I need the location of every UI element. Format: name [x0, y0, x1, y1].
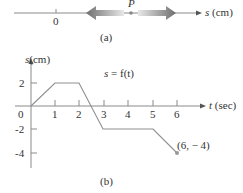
- x-tick-label-4: 4: [125, 108, 131, 120]
- caption-b: (b): [100, 175, 113, 188]
- origin-label-b: 0: [18, 108, 24, 120]
- left-arrow-icon: [86, 6, 124, 20]
- x-tick-label-1: 1: [52, 108, 58, 120]
- endpoint-marker: [175, 151, 179, 155]
- s-axis-arrowhead-icon: [196, 11, 202, 16]
- right-arrow-icon: [138, 6, 176, 20]
- caption-a: (a): [100, 31, 113, 44]
- x-tick-label-6: 6: [174, 108, 180, 120]
- x-tick-label-2: 2: [76, 108, 82, 120]
- function-label: s = f(t): [104, 67, 134, 80]
- x-tick-label-5: 5: [150, 108, 156, 120]
- endpoint-label: (6, − 4): [177, 139, 210, 152]
- y-tick-label-neg2: -2: [15, 123, 24, 135]
- point-label-p: P: [127, 0, 135, 9]
- x-tick-label-3: 3: [101, 108, 107, 120]
- y-tick-label-neg4: -4: [15, 147, 25, 159]
- y-ticks: [31, 83, 37, 153]
- x-axis-arrowhead-icon: [200, 104, 206, 109]
- origin-label-a: 0: [53, 15, 59, 27]
- x-axis-label: t (sec): [209, 99, 237, 112]
- y-axis-label: s(cm): [25, 53, 50, 66]
- x-ticks: [55, 100, 177, 106]
- y-tick-label-2: 2: [19, 77, 25, 89]
- point-p: [129, 11, 133, 15]
- figure: 0 P s (cm) (a) s(cm) s = f(t) 2 -2 -4 0 …: [0, 0, 243, 193]
- panel-a: [14, 6, 202, 20]
- s-axis-label: s (cm): [205, 6, 233, 19]
